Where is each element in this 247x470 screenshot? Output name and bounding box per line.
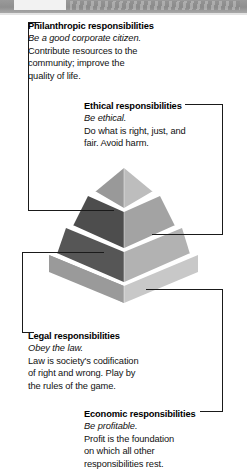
callout-ethical-body-line-2: fair. Avoid harm. — [84, 137, 244, 150]
callout-legal-title: Legal responsibilities — [28, 330, 228, 342]
callout-economic-body-line-1: Profit is the foundation — [84, 433, 244, 446]
callout-legal-subtitle: Obey the law. — [28, 342, 228, 355]
callout-philanthropic-title: Philanthropic responsibilities — [28, 20, 228, 32]
callout-philanthropic: Philanthropic responsibilities Be a good… — [28, 20, 228, 82]
callout-ethical-title: Ethical responsibilities — [84, 100, 244, 112]
callout-philanthropic-subtitle: Be a good corporate citizen. — [28, 32, 228, 45]
callout-economic: Economic responsibilities Be profitable.… — [84, 408, 244, 470]
callout-legal-body-line-3: the rules of the game. — [28, 380, 228, 393]
callout-legal-body-line-1: Law is society's codification — [28, 355, 228, 368]
callout-ethical-subtitle: Be ethical. — [84, 112, 244, 125]
figure-canvas: Philanthropic responsibilities Be a good… — [0, 0, 247, 470]
callout-ethical-body-line-1: Do what is right, just, and — [84, 125, 244, 138]
callout-legal: Legal responsibilities Obey the law. Law… — [28, 330, 228, 392]
callout-ethical-body: Do what is right, just, and fair. Avoid … — [84, 125, 244, 150]
callout-economic-title: Economic responsibilities — [84, 408, 244, 420]
callout-ethical: Ethical responsibilities Be ethical. Do … — [84, 100, 244, 150]
callout-economic-body-line-2: on which all other — [84, 445, 244, 458]
callout-economic-subtitle: Be profitable. — [84, 420, 244, 433]
callout-legal-body: Law is society's codification of right a… — [28, 355, 228, 393]
callout-philanthropic-body-line-1: Contribute resources to the — [28, 45, 228, 58]
callout-economic-body-line-3: responsibilities rest. — [84, 458, 244, 470]
callout-legal-body-line-2: of right and wrong. Play by — [28, 367, 228, 380]
callout-philanthropic-body: Contribute resources to the community; i… — [28, 45, 228, 83]
callout-philanthropic-body-line-2: community; improve the — [28, 57, 228, 70]
callout-economic-body: Profit is the foundation on which all ot… — [84, 433, 244, 470]
callout-philanthropic-body-line-3: quality of life. — [28, 70, 228, 83]
